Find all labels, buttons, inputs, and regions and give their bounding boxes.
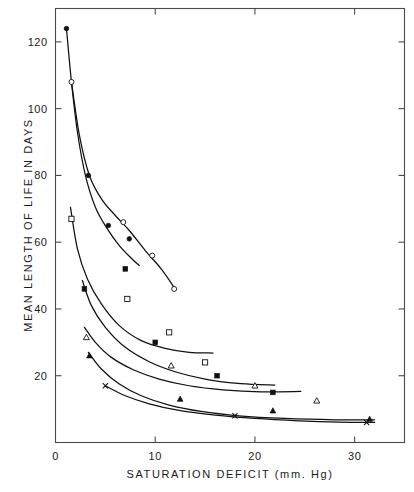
trend-curve xyxy=(71,82,175,289)
data-point-cross xyxy=(103,383,108,388)
data-point-filled-circle xyxy=(106,223,111,228)
y-tick-label: 80 xyxy=(34,169,47,181)
y-tick-label: 120 xyxy=(28,36,48,48)
x-axis-title: SATURATION DEFICIT (mm. Hg) xyxy=(127,468,334,480)
x-tick-label: 30 xyxy=(348,450,361,462)
data-point-filled-square xyxy=(82,287,87,292)
data-point-filled-square xyxy=(271,390,276,395)
data-point-open-square xyxy=(202,360,207,365)
data-point-filled-triangle xyxy=(270,408,276,413)
data-point-open-triangle xyxy=(83,334,89,339)
data-point-open-square xyxy=(125,296,130,301)
data-point-filled-square xyxy=(215,373,220,378)
y-tick-label: 20 xyxy=(34,370,47,382)
data-point-open-circle xyxy=(121,220,126,225)
trend-curve xyxy=(88,352,374,420)
y-tick-label: 60 xyxy=(34,236,47,248)
figure-container: 20406080100120 0102030 SATURATION DEFICI… xyxy=(0,0,414,492)
data-point-open-triangle xyxy=(314,398,320,403)
data-point-open-circle xyxy=(69,79,74,84)
data-point-filled-circle xyxy=(64,26,69,31)
data-markers xyxy=(64,26,372,425)
data-point-filled-circle xyxy=(127,237,132,242)
data-point-filled-square xyxy=(123,267,128,272)
y-axis-ticks xyxy=(56,42,405,376)
x-tick-label: 20 xyxy=(248,450,261,462)
x-axis-tick-labels: 0102030 xyxy=(52,450,361,462)
data-point-open-square xyxy=(69,216,74,221)
x-tick-label: 0 xyxy=(52,450,59,462)
data-point-filled-square xyxy=(153,340,158,345)
data-point-open-triangle xyxy=(168,363,174,368)
chart-canvas: 20406080100120 0102030 SATURATION DEFICI… xyxy=(0,0,414,492)
trend-curve xyxy=(82,281,274,385)
y-axis-title: MEAN LENGTH OF LIFE IN DAYS xyxy=(22,118,34,332)
data-point-open-triangle xyxy=(252,383,258,388)
y-tick-label: 40 xyxy=(34,303,47,315)
y-tick-label: 100 xyxy=(28,103,48,115)
data-point-filled-triangle xyxy=(177,396,183,401)
trend-curves xyxy=(66,29,374,423)
x-axis-ticks xyxy=(155,9,354,443)
data-point-filled-triangle xyxy=(87,353,93,358)
x-tick-label: 10 xyxy=(149,450,162,462)
data-point-filled-triangle xyxy=(367,416,373,421)
data-point-filled-circle xyxy=(86,173,91,178)
data-point-open-square xyxy=(167,330,172,335)
data-point-open-circle xyxy=(150,253,155,258)
data-point-open-circle xyxy=(172,286,177,291)
trend-curve xyxy=(70,207,213,353)
